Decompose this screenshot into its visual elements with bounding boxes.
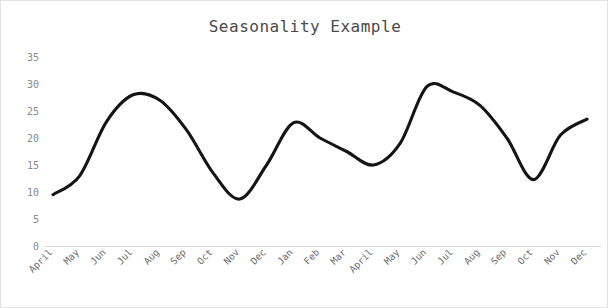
y-axis-tick-label: 30: [27, 79, 39, 90]
x-axis-tick-label: May: [382, 246, 402, 266]
x-axis-tick-label: Sep: [168, 246, 188, 266]
y-axis-tick-label: 20: [27, 133, 39, 144]
x-axis-tick-label: Sep: [488, 246, 508, 266]
x-axis-tick-label: Oct: [515, 247, 535, 267]
y-axis-tick-label: 5: [33, 214, 39, 225]
x-axis-tick-label: Jun: [88, 247, 108, 267]
x-axis-tick-label: Dec: [248, 247, 268, 267]
x-axis-tick-label: Aug: [462, 247, 482, 267]
y-axis-tick-label: 35: [27, 52, 39, 63]
y-axis-tick-label: 10: [27, 187, 39, 198]
x-axis-tick-label: Jul: [435, 247, 455, 267]
x-axis-tick-label: Nov: [221, 246, 241, 266]
seasonality-line-chart: 05101520253035 AprilMayJunJulAugSepOctNo…: [1, 1, 608, 308]
x-axis-tick-label: Jan: [275, 247, 295, 267]
y-axis-tick-label: 15: [27, 160, 39, 171]
series-line-seasonality: [53, 83, 587, 199]
x-axis-tick-label: April: [26, 247, 54, 275]
x-axis-tick-label: Jul: [115, 247, 135, 267]
x-axis-tick-label: Feb: [301, 246, 321, 266]
y-axis-tick-label: 0: [33, 241, 39, 252]
x-axis-tick-label: Oct: [195, 247, 215, 267]
x-axis-tick-label: Aug: [141, 247, 161, 267]
x-axis-tick-label: April: [347, 247, 375, 275]
x-axis: AprilMayJunJulAugSepOctNovDecJanFebMarAp…: [26, 246, 588, 274]
x-axis-tick-label: Jun: [408, 247, 428, 267]
x-axis-tick-label: Mar: [328, 246, 348, 266]
chart-container: Seasonality Example 05101520253035 April…: [0, 0, 608, 308]
x-axis-tick-label: Nov: [542, 246, 562, 266]
y-axis-tick-label: 25: [27, 106, 39, 117]
y-axis: 05101520253035: [27, 52, 39, 252]
x-axis-tick-label: Dec: [568, 247, 588, 267]
x-axis-tick-label: May: [61, 246, 81, 266]
